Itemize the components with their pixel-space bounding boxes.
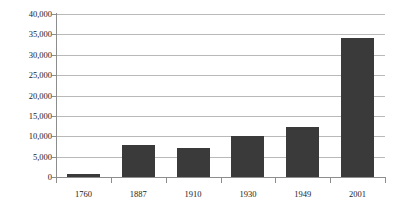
x-axis-tick-label-2001: 2001 [330, 190, 385, 199]
bar-group [111, 14, 166, 177]
y-axis-tick-label: 20,000 [4, 91, 52, 100]
y-axis-tick-mark [52, 157, 56, 158]
x-axis-tick-label-1887: 1887 [111, 190, 166, 199]
y-axis-tick-mark [52, 34, 56, 35]
y-axis-tick-label: 15,000 [4, 112, 52, 121]
y-axis-tick-mark [52, 96, 56, 97]
bar-1887[interactable] [122, 145, 155, 177]
y-axis-line [56, 13, 57, 178]
x-axis-tick-label-1760: 1760 [56, 190, 111, 199]
y-axis-tick-labels: 05,00010,00015,00020,00025,00030,00035,0… [0, 0, 52, 216]
x-axis-tick-mark [111, 178, 112, 183]
bar-group [166, 14, 221, 177]
y-axis-tick-mark [52, 55, 56, 56]
bar-chart: 05,00010,00015,00020,00025,00030,00035,0… [0, 0, 404, 216]
y-axis-tick-mark [52, 75, 56, 76]
bar-group [56, 14, 111, 177]
x-axis-tick-mark [330, 178, 331, 183]
bar-group [221, 14, 276, 177]
y-axis-tick-label: 30,000 [4, 51, 52, 60]
y-axis-tick-mark [52, 14, 56, 15]
bar-1910[interactable] [177, 148, 210, 177]
bar-group [275, 14, 330, 177]
y-axis-tick-label: 40,000 [4, 10, 52, 19]
y-axis-tick-label: 0 [4, 173, 52, 182]
y-axis-tick-label: 25,000 [4, 71, 52, 80]
y-axis-tick-mark [52, 116, 56, 117]
x-axis-tick-mark [221, 178, 222, 183]
y-axis-tick-label: 35,000 [4, 30, 52, 39]
x-axis-tick-mark [385, 178, 386, 183]
bar-1930[interactable] [231, 136, 264, 177]
x-axis-tick-label-1910: 1910 [166, 190, 221, 199]
x-axis-tick-mark [275, 178, 276, 183]
y-axis-tick-mark [52, 136, 56, 137]
y-axis-tick-label: 10,000 [4, 132, 52, 141]
bar-group [330, 14, 385, 177]
y-axis-tick-label: 5,000 [4, 152, 52, 161]
bar-1949[interactable] [286, 127, 319, 177]
bar-2001[interactable] [341, 38, 374, 177]
x-axis-tick-mark [166, 178, 167, 183]
x-axis-tick-label-1949: 1949 [275, 190, 330, 199]
plot-area [56, 14, 385, 177]
x-axis-tick-label-1930: 1930 [221, 190, 276, 199]
x-axis-tick-mark [56, 178, 57, 183]
